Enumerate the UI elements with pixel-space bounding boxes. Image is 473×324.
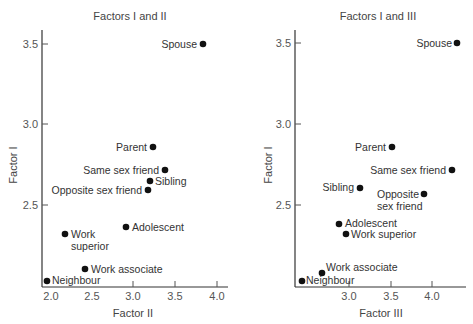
data-point-neighbour — [299, 278, 306, 285]
x-tick-label: 4.0 — [209, 290, 224, 302]
data-point-adolescent — [123, 224, 130, 231]
point-label: Sibling — [155, 175, 187, 187]
data-point-parent — [389, 144, 396, 151]
point-label: Parent — [116, 141, 147, 153]
data-point-work-superior — [62, 231, 69, 238]
data-point-sibling — [147, 178, 154, 185]
data-point-work-superior — [343, 231, 350, 238]
x-tick-label: 3.0 — [341, 290, 356, 302]
data-point-opposite-sex-friend — [145, 187, 152, 194]
point-label: Sibling — [322, 181, 354, 193]
data-point-same-sex-friend — [162, 167, 169, 174]
x-axis-label: Factor II — [113, 307, 153, 319]
point-label: Work associate — [91, 263, 163, 275]
point-label: Opposite sex friend — [52, 184, 143, 196]
point-label: sex friend — [377, 200, 423, 212]
point-label: Work — [71, 228, 96, 240]
data-point-neighbour — [44, 278, 51, 285]
data-point-same-sex-friend — [449, 167, 456, 174]
data-point-parent — [150, 144, 157, 151]
point-label: Neighbour — [52, 274, 101, 286]
data-point-adolescent — [336, 221, 343, 228]
y-tick-label: 3.5 — [23, 38, 38, 50]
point-label: Neighbour — [306, 274, 355, 286]
point-label: Adolescent — [132, 221, 184, 233]
point-label: Parent — [355, 141, 386, 153]
point-label: Same sex friend — [83, 164, 159, 176]
chart-factors-1-2: Factors I and II 3.5 3.0 2.5 2.0 2.5 3.0… — [7, 10, 228, 319]
x-tick-label: 3.5 — [167, 290, 182, 302]
y-axis-label: Factor I — [7, 146, 19, 183]
point-label: Work associate — [326, 261, 398, 273]
chart-title: Factors I and III — [340, 10, 416, 22]
data-point-work-associate — [82, 266, 89, 273]
y-axis-label: Factor I — [262, 146, 274, 183]
y-tick-label: 2.5 — [276, 199, 291, 211]
x-tick-label: 3.5 — [383, 290, 398, 302]
factor-charts: Factors I and II 3.5 3.0 2.5 2.0 2.5 3.0… — [0, 0, 473, 324]
point-label: superior — [71, 240, 109, 252]
point-label: Spouse — [161, 38, 197, 50]
data-point-spouse — [454, 40, 461, 47]
point-label: Same sex friend — [370, 164, 446, 176]
chart-factors-1-3: Factors I and III 3.5 3.0 2.5 3.0 3.5 4.… — [262, 10, 466, 319]
y-tick-label: 3.0 — [23, 118, 38, 130]
point-label: Work superior — [351, 228, 417, 240]
y-tick-label: 2.5 — [23, 199, 38, 211]
y-tick-label: 3.5 — [276, 37, 291, 49]
data-point-opposite-sex-friend — [421, 191, 428, 198]
x-tick-label: 2.0 — [43, 290, 58, 302]
point-label: Opposite — [377, 188, 419, 200]
x-axis-label: Factor III — [359, 307, 402, 319]
chart-title: Factors I and II — [93, 10, 166, 22]
x-tick-label: 2.5 — [84, 290, 99, 302]
y-tick-label: 3.0 — [276, 118, 291, 130]
data-point-spouse — [200, 41, 207, 48]
point-label: Spouse — [416, 37, 452, 49]
data-point-sibling — [357, 185, 364, 192]
x-tick-label: 3.0 — [125, 290, 140, 302]
x-tick-label: 4.0 — [424, 290, 439, 302]
